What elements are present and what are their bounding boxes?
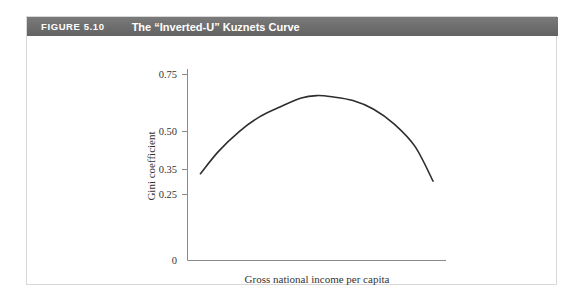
figure-number-label: FIGURE 5.10	[41, 21, 105, 32]
y-tick-label-035: 0.35	[159, 164, 177, 175]
figure-container: FIGURE 5.10 The “Inverted-U” Kuznets Cur…	[26, 16, 557, 285]
y-tick-label-025: 0.25	[159, 189, 177, 200]
y-axis-ticks	[182, 75, 188, 195]
y-axis-tick-labels: 0.75 0.50 0.35 0.25 0	[159, 69, 177, 266]
chart-plot-area: 0.75 0.50 0.35 0.25 0 Gini coefficient G…	[27, 36, 558, 285]
y-tick-label-075: 0.75	[159, 69, 177, 80]
x-axis-title: Gross national income per capita	[245, 273, 390, 285]
figure-header-bar: FIGURE 5.10 The “Inverted-U” Kuznets Cur…	[27, 17, 558, 36]
figure-title: The “Inverted-U” Kuznets Curve	[132, 21, 300, 33]
y-axis-title: Gini coefficient	[145, 131, 157, 200]
kuznets-curve-chart: 0.75 0.50 0.35 0.25 0 Gini coefficient G…	[27, 36, 558, 285]
y-tick-label-050: 0.50	[159, 126, 177, 137]
kuznets-curve-line	[200, 96, 433, 182]
y-tick-label-0: 0	[172, 255, 177, 266]
